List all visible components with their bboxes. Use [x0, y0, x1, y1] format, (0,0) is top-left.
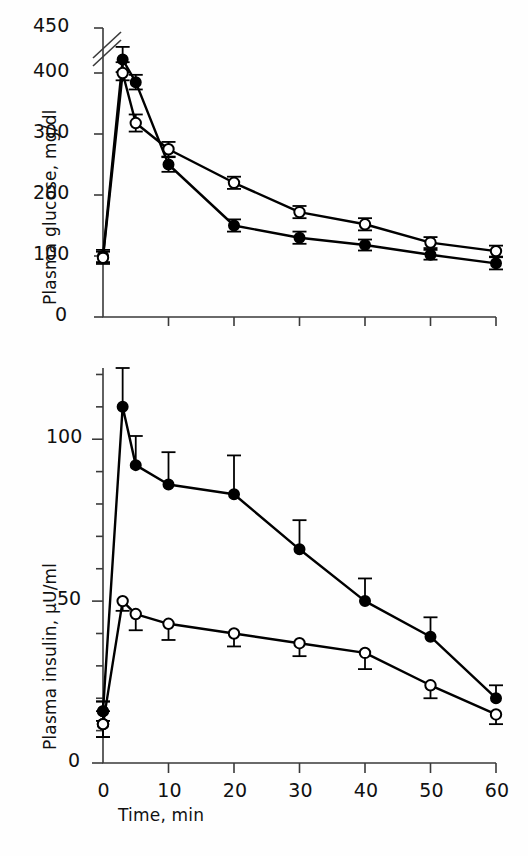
insulin-xtick-label: 60 [485, 779, 509, 801]
insulin-xtick-label: 10 [157, 779, 181, 801]
insulin-datapoint [358, 578, 372, 606]
glucose-ytick-label: 400 [33, 59, 69, 81]
marker-open-circle [360, 219, 370, 229]
marker-open-circle [98, 719, 108, 729]
marker-open-circle [131, 118, 141, 128]
insulin-xtick-label: 50 [419, 779, 443, 801]
glucose-datapoint [227, 177, 241, 189]
marker-open-circle [425, 680, 435, 690]
insulin-datapoint [424, 617, 438, 642]
glucose-ytick-label: 0 [55, 303, 67, 325]
insulin-datapoint [227, 628, 241, 646]
marker-filled-circle [163, 479, 173, 489]
insulin-ytick-label: 0 [68, 749, 80, 771]
glucose-panel: Plasma glucose, mg/dl 0100200300400450 [0, 0, 528, 350]
marker-open-circle [294, 207, 304, 217]
glucose-datapoint [293, 206, 307, 218]
marker-open-circle [425, 237, 435, 247]
marker-filled-circle [294, 544, 304, 554]
marker-open-circle [98, 253, 108, 263]
marker-open-circle [117, 68, 127, 78]
figure-canvas: Plasma glucose, mg/dl 0100200300400450 P… [0, 0, 528, 856]
glucose-datapoint [489, 246, 503, 257]
glucose-ytick-label: 200 [33, 181, 69, 203]
glucose-datapoint [358, 218, 372, 230]
marker-filled-circle [229, 489, 239, 499]
insulin-datapoint [116, 368, 130, 412]
insulin-datapoint [116, 596, 130, 611]
glucose-datapoint [129, 75, 143, 90]
insulin-datapoint [489, 709, 503, 724]
glucose-datapoint [424, 250, 438, 260]
glucose-datapoint [293, 232, 307, 244]
marker-open-circle [294, 638, 304, 648]
marker-open-circle [163, 619, 173, 629]
marker-filled-circle [425, 250, 435, 260]
insulin-panel: Plasma insulin, μU/ml Time, min 05010001… [0, 350, 528, 856]
marker-open-circle [491, 709, 501, 719]
glucose-ytick-label: 100 [33, 242, 69, 264]
insulin-datapoint [227, 455, 241, 499]
marker-open-circle [229, 628, 239, 638]
insulin-xtick-label: 30 [288, 779, 312, 801]
glucose-ytick-label: 300 [33, 120, 69, 142]
marker-filled-circle [360, 596, 370, 606]
marker-filled-circle [491, 693, 501, 703]
marker-filled-circle [229, 220, 239, 230]
marker-filled-circle [117, 402, 127, 412]
marker-filled-circle [360, 240, 370, 250]
marker-open-circle [163, 144, 173, 154]
insulin-ytick-label: 50 [57, 587, 81, 609]
insulin-datapoint [293, 638, 307, 656]
marker-open-circle [491, 246, 501, 256]
glucose-datapoint [489, 257, 503, 269]
marker-open-circle [360, 648, 370, 658]
glucose-datapoint [358, 240, 372, 251]
insulin-datapoint [129, 609, 143, 630]
glucose-datapoint [129, 114, 143, 131]
insulin-xtick-label: 20 [223, 779, 247, 801]
insulin-datapoint [293, 520, 307, 554]
marker-filled-circle [491, 258, 501, 268]
insulin-curve-open-circle [103, 601, 496, 724]
marker-open-circle [229, 178, 239, 188]
marker-filled-circle [294, 233, 304, 243]
insulin-datapoint [358, 648, 372, 669]
glucose-plot [0, 0, 528, 350]
marker-open-circle [131, 609, 141, 619]
insulin-datapoint [424, 680, 438, 698]
marker-filled-circle [131, 460, 141, 470]
marker-filled-circle [425, 632, 435, 642]
marker-filled-circle [131, 77, 141, 87]
insulin-datapoint [162, 619, 176, 640]
insulin-datapoint [162, 452, 176, 490]
insulin-xtick-label: 0 [97, 779, 109, 801]
insulin-axes [103, 368, 496, 763]
insulin-xtick-label: 40 [354, 779, 378, 801]
glucose-ytick-label: 450 [33, 14, 69, 36]
glucose-datapoint [424, 237, 438, 248]
insulin-ytick-label: 100 [46, 425, 82, 447]
marker-open-circle [117, 596, 127, 606]
glucose-datapoint [116, 62, 130, 80]
glucose-curve-open-circle [103, 73, 496, 258]
axis-break-slash-1 [93, 32, 121, 58]
time-axis-title: Time, min [118, 805, 204, 825]
insulin-baseline-errorbar [96, 711, 110, 737]
marker-filled-circle [163, 159, 173, 169]
